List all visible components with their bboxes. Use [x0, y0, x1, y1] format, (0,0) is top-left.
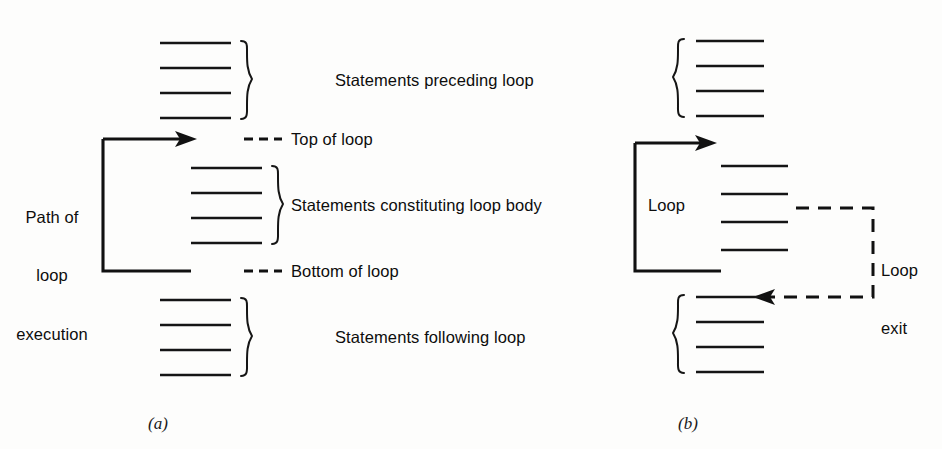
panel-b-loop-body-statement-lines	[721, 166, 788, 250]
path-label-line-1: Path of	[8, 208, 96, 227]
panel-a-bottom-of-loop-label: Bottom of loop	[291, 262, 399, 281]
loop-exit-label-line-2: exit	[881, 319, 918, 338]
panel-b-following-statement-lines	[696, 297, 764, 372]
loop-structure-figure: Statements preceding loop Top of loop St…	[0, 0, 942, 449]
panel-a-loop-body-label: Statements constituting loop body	[291, 196, 542, 215]
panel-a-loop-body-brace	[272, 166, 283, 244]
panel-b-preceding-statement-lines	[696, 41, 764, 116]
panel-b-following-brace	[673, 295, 684, 373]
figure-drawing-layer	[0, 0, 942, 449]
panel-a-preceding-loop-label: Statements preceding loop	[335, 71, 534, 90]
panel-a-loop-body-statement-lines	[191, 168, 262, 243]
panel-a-loop-execution-path	[103, 131, 197, 271]
loop-exit-label-line-1: Loop	[881, 261, 918, 280]
panel-a-caption: (a)	[148, 414, 168, 434]
panel-a-preceding-brace	[241, 41, 252, 119]
panel-a-top-of-loop-label: Top of loop	[291, 130, 373, 149]
panel-a-path-of-loop-execution-label: Path of loop execution	[8, 169, 96, 383]
panel-a-preceding-statement-lines	[160, 43, 231, 118]
panel-a-following-brace	[241, 298, 252, 376]
panel-b-preceding-brace	[673, 39, 684, 117]
path-label-line-2: loop	[8, 266, 96, 285]
panel-a-following-statement-lines	[160, 300, 231, 375]
panel-b-loop-label: Loop	[648, 196, 685, 215]
path-label-line-3: execution	[8, 325, 96, 344]
panel-a-following-loop-label: Statements following loop	[335, 328, 526, 347]
panel-b-caption: (b)	[678, 414, 698, 434]
panel-b-loop-exit-label: Loop exit	[881, 222, 918, 378]
